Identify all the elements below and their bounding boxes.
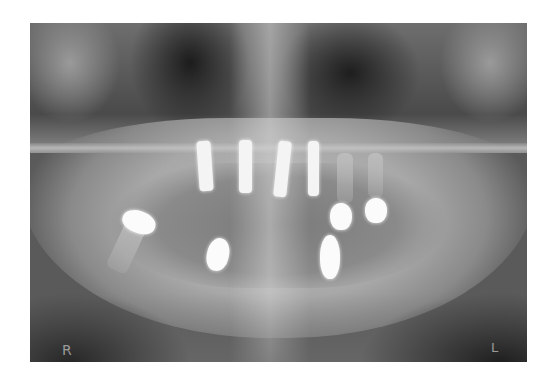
lower-border-shadow	[30, 293, 527, 362]
upper-crown-1	[330, 203, 352, 230]
left-side-marker: L	[491, 341, 498, 355]
upper-tooth-root-1	[337, 153, 353, 203]
right-side-marker: R	[62, 343, 72, 357]
lower-implant-head-2	[320, 235, 340, 279]
upper-tooth-root-2	[368, 153, 383, 198]
upper-implant-4	[308, 141, 319, 196]
upper-crown-2	[365, 198, 387, 223]
upper-implant-2	[239, 140, 252, 193]
panoramic-xray: R L	[30, 23, 527, 362]
